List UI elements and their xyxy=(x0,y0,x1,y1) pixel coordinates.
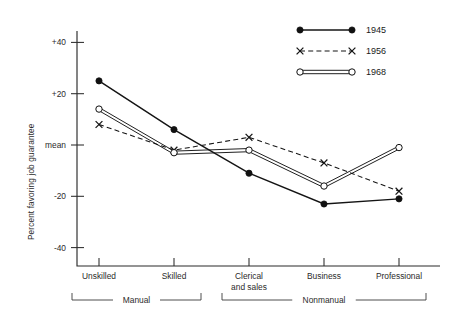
y-tick--40: -40 xyxy=(54,243,84,253)
chart-legend: 194519561968 xyxy=(297,25,386,77)
y-tick-label: +20 xyxy=(52,89,67,99)
y-axis-ticks: +40+20mean-20-40 xyxy=(45,37,84,252)
series-1945 xyxy=(96,78,402,207)
legend-label: 1968 xyxy=(366,67,386,77)
chart-figure: +40+20mean-20-40 Percent favoring job gu… xyxy=(0,0,449,320)
data-point-marker xyxy=(349,69,355,75)
data-point-marker xyxy=(171,127,177,133)
data-point-marker xyxy=(297,69,303,75)
data-point-marker xyxy=(297,27,303,33)
data-point-marker xyxy=(321,201,327,207)
data-point-marker xyxy=(96,78,102,84)
line-chart-canvas: +40+20mean-20-40 Percent favoring job gu… xyxy=(0,0,449,320)
x-category-business: Business xyxy=(307,258,341,281)
legend-item-1968[interactable]: 1968 xyxy=(297,67,386,77)
series-line xyxy=(99,81,399,204)
x-category-professional: Professional xyxy=(376,258,422,281)
x-category-skilled: Skilled xyxy=(162,258,187,281)
data-point-marker xyxy=(96,121,103,128)
group-bracket-nonmanual: Nonmanual xyxy=(222,293,426,305)
y-tick-label: -40 xyxy=(54,243,66,253)
x-tick-label: Clerical xyxy=(235,271,263,281)
y-tick-label: +40 xyxy=(52,37,67,47)
legend-label: 1956 xyxy=(366,46,386,56)
data-point-marker xyxy=(321,183,327,189)
axis-lines xyxy=(77,31,440,266)
group-bracket-label: Nonmanual xyxy=(303,295,346,305)
legend-item-1956[interactable]: 1956 xyxy=(297,46,386,56)
data-point-marker xyxy=(321,160,328,167)
chart-series-layer xyxy=(96,78,403,207)
y-tick-mean: mean xyxy=(45,140,84,150)
x-tick-label: Business xyxy=(307,271,341,281)
data-point-marker xyxy=(349,27,355,33)
x-tick-label: Professional xyxy=(376,271,422,281)
data-point-marker xyxy=(246,134,253,141)
y-tick--20: -20 xyxy=(54,191,84,201)
y-tick-label: mean xyxy=(45,140,66,150)
data-point-marker xyxy=(396,188,403,195)
data-point-marker xyxy=(246,170,252,176)
group-bracket-layer: ManualNonmanual xyxy=(72,293,426,305)
legend-item-1945[interactable]: 1945 xyxy=(297,25,386,35)
x-category-clerical-and-sales: Clericaland sales xyxy=(231,258,267,292)
data-point-marker xyxy=(171,149,177,155)
legend-label: 1945 xyxy=(366,25,386,35)
group-bracket-label: Manual xyxy=(123,295,151,305)
data-point-marker xyxy=(396,144,402,150)
x-tick-label: Skilled xyxy=(162,271,187,281)
x-tick-label: and sales xyxy=(231,282,267,292)
data-point-marker xyxy=(96,106,102,112)
data-point-marker xyxy=(246,147,252,153)
y-tick-plus40: +40 xyxy=(52,37,84,47)
x-tick-label: Unskilled xyxy=(82,271,116,281)
y-tick-plus20: +20 xyxy=(52,89,84,99)
x-axis-ticks: UnskilledSkilledClericaland salesBusines… xyxy=(82,258,422,292)
series-line xyxy=(99,124,399,191)
group-bracket-manual: Manual xyxy=(72,293,201,305)
y-tick-label: -20 xyxy=(54,191,66,201)
chart-axes xyxy=(77,31,440,266)
y-axis-title: Percent favoring job guarantee xyxy=(27,123,36,240)
data-point-marker xyxy=(396,196,402,202)
series-1968 xyxy=(96,106,402,189)
x-category-unskilled: Unskilled xyxy=(82,258,116,281)
